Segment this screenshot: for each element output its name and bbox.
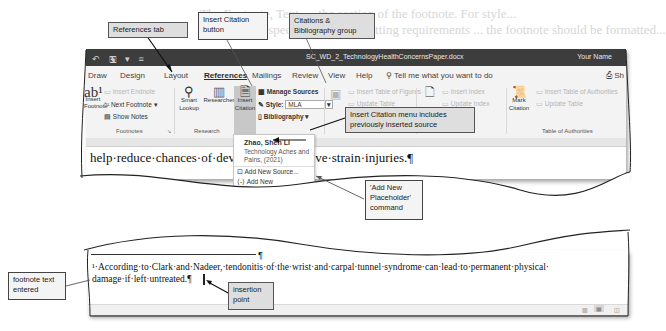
- callout-menu-includes-source: Insert Citation menu includes previously…: [345, 107, 475, 133]
- callout-references-tab: References tab: [108, 22, 188, 38]
- callout-footnote-text-entered: footnote text entered: [8, 272, 66, 300]
- callout-add-new-placeholder: 'Add New Placeholder' command: [365, 180, 423, 220]
- callout-insertion-point: insertion point: [228, 282, 274, 310]
- callout-insert-citation-button: Insert Citation button: [198, 12, 268, 40]
- callout-citations-group: Citations & Bibliography group: [289, 13, 375, 39]
